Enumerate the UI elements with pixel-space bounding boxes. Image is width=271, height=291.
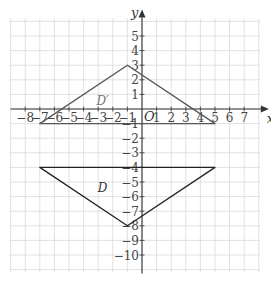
- y-tick-label: −2: [121, 132, 139, 146]
- axes: [11, 9, 269, 273]
- coordinate-plane-chart: −8−7−6−5−4−3−2−1123456754321−1−2−3−4−5−6…: [0, 0, 271, 291]
- y-tick-label: −6: [121, 190, 139, 204]
- y-axis-label: y: [130, 5, 139, 20]
- origin-label: O: [144, 109, 155, 124]
- y-tick-label: −8: [121, 219, 139, 233]
- y-tick-label: 2: [131, 73, 139, 87]
- label-d-prime: D′: [95, 94, 109, 108]
- x-tick-label: 2: [167, 111, 175, 125]
- x-tick-label: 7: [240, 111, 248, 125]
- y-tick-label: 5: [131, 30, 139, 44]
- y-tick-label: −7: [121, 205, 139, 219]
- x-axis-label: x: [267, 111, 271, 126]
- x-tick-label: 6: [226, 111, 234, 125]
- x-tick-label: 4: [197, 111, 205, 125]
- label-d: D: [97, 181, 108, 195]
- y-tick-label: 1: [131, 88, 139, 102]
- y-tick-label: 4: [131, 44, 139, 58]
- x-tick-label: 3: [182, 111, 190, 125]
- y-tick-label: −9: [121, 234, 139, 248]
- y-tick-label: −5: [121, 176, 139, 190]
- y-tick-label: −10: [114, 249, 139, 263]
- y-tick-label: −3: [121, 146, 139, 160]
- y-axis-arrow-icon: [139, 9, 146, 17]
